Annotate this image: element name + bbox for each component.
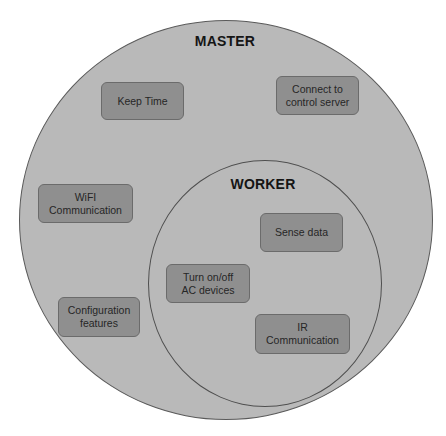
connect-server-box: Connect tocontrol server [276, 76, 359, 115]
turn-on-off-box: Turn on/offAC devices [166, 264, 250, 303]
box-text: Communication [266, 334, 339, 347]
box-text: features [68, 317, 130, 330]
box-text: Communication [49, 204, 122, 217]
keep-time-box: Keep Time [101, 82, 184, 120]
box-text: Connect to [286, 83, 350, 96]
box-text: AC devices [181, 284, 234, 297]
sense-data-box: Sense data [260, 213, 343, 252]
box-text: Sense data [275, 226, 328, 239]
box-text: control server [286, 96, 350, 109]
master-label: MASTER [175, 33, 275, 49]
box-text: Turn on/off [181, 271, 234, 284]
configuration-box: Configurationfeatures [58, 297, 140, 337]
worker-label: WORKER [213, 176, 313, 192]
box-text: IR [266, 321, 339, 334]
box-text: Keep Time [117, 95, 167, 108]
box-text: WiFI [49, 191, 122, 204]
ir-box: IRCommunication [255, 314, 350, 354]
diagram-canvas: MASTER Keep Time Connect tocontrol serve… [0, 0, 446, 436]
wifi-box: WiFICommunication [38, 184, 133, 223]
box-text: Configuration [68, 304, 130, 317]
